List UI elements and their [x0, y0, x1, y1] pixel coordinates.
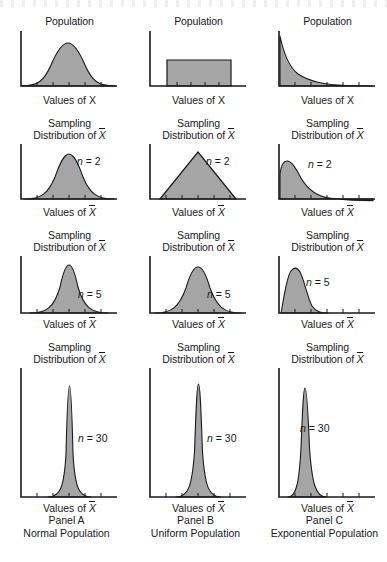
sample-size-label: n = 5 [78, 288, 102, 300]
panel-caption-line2: Uniform Population [133, 527, 258, 540]
chart-title-line2: Distribution of X [276, 242, 379, 254]
x-axis-label-text: Values of [43, 318, 89, 330]
panel-caption-line2: Normal Population [4, 527, 129, 540]
cell-panel-c-population: Population Values of X [258, 14, 387, 118]
x-bar-symbol: X [228, 242, 235, 254]
chart-title-line2: Distribution of X [276, 130, 379, 142]
plot-exponential-population [276, 29, 377, 91]
x-axis-label-text: Values of [301, 206, 347, 218]
sample-size-label: n = 30 [207, 432, 237, 444]
cell-panel-b-n2: Sampling Distribution of X n = 2 [129, 118, 258, 228]
x-axis-label-text: Values of [172, 318, 218, 330]
chart-title-line2: Distribution of X [18, 354, 121, 366]
x-axis-label: Values of X [18, 94, 121, 106]
cell-panel-a-n30: Sampling Distribution of X n = 30 [0, 340, 129, 562]
sample-size-label: n = 5 [306, 276, 330, 288]
chart-title: Population [18, 16, 121, 28]
chart-title-line2: Distribution of X [147, 242, 250, 254]
plot-svg [18, 29, 119, 91]
x-axis-label-text: Values of [172, 206, 218, 218]
x-axis-label-text: Values of [43, 206, 89, 218]
x-axis-label: Values of X [276, 206, 379, 218]
x-bar-symbol: X [357, 242, 364, 254]
sample-size-label: n = 30 [78, 432, 108, 444]
x-bar-symbol: X [99, 242, 106, 254]
chart-title: Sampling Distribution of X [18, 118, 121, 141]
cell-panel-c-n2: Sampling Distribution of X n = 2 [258, 118, 387, 228]
clt-figure: Population Values of X Populat [0, 0, 387, 562]
x-bar-symbol: X [347, 318, 354, 330]
chart-title: Sampling Distribution of X [276, 230, 379, 253]
x-bar-symbol: X [89, 318, 96, 330]
x-axis-label: Values of X [147, 318, 250, 330]
chart-title: Sampling Distribution of X [276, 118, 379, 141]
distribution-curve [280, 36, 373, 86]
cell-panel-b-n5: Sampling Distribution of X n = 5 [129, 228, 258, 340]
plot-uniform-n5 [147, 256, 248, 318]
chart-title: Sampling Distribution of X [276, 342, 379, 365]
x-axis-label-text: Values of [172, 502, 218, 514]
plot-svg [18, 256, 119, 318]
sample-size-label: n = 2 [308, 158, 332, 170]
plot-svg [276, 144, 377, 204]
panel-caption-line1: Panel B [133, 514, 258, 527]
cell-panel-a-population: Population Values of X [0, 14, 129, 118]
panel-caption: Panel B Uniform Population [133, 514, 258, 539]
cell-panel-a-n2: Sampling Distribution of X n = 2 [0, 118, 129, 228]
plot-svg [276, 29, 377, 91]
x-axis-label: Values of X [147, 206, 250, 218]
x-axis-label: Values of X [147, 94, 250, 106]
chart-title: Sampling Distribution of X [147, 118, 250, 141]
cell-panel-b-n30: Sampling Distribution of X n = 30 [129, 340, 258, 562]
cell-panel-a-n5: Sampling Distribution of X n = 5 [0, 228, 129, 340]
plot-uniform-population [147, 29, 248, 91]
chart-title-line2: Distribution of X [276, 354, 379, 366]
distribution-curve [288, 388, 326, 497]
plot-svg [147, 144, 248, 204]
x-axis-label: Values of X [18, 318, 121, 330]
x-axis-label: Values of X [18, 502, 121, 514]
plot-normal-n5 [18, 256, 119, 318]
x-bar-symbol: X [357, 354, 364, 366]
chart-title-line2: Distribution of X [18, 242, 121, 254]
panel-caption-line1: Panel A [4, 514, 129, 527]
x-axis-label: Values of X [18, 206, 121, 218]
top-edge-artifact [0, 0, 387, 7]
x-axis-label-text: Values of [301, 502, 347, 514]
plot-exponential-n2 [276, 144, 377, 204]
panel-caption: Panel A Normal Population [4, 514, 129, 539]
plot-svg [18, 144, 119, 204]
panel-caption-line1: Panel C [262, 514, 387, 527]
x-bar-symbol: X [347, 502, 354, 514]
distribution-curve [21, 43, 115, 86]
plot-uniform-n2 [147, 144, 248, 204]
plot-svg [147, 256, 248, 318]
x-bar-symbol: X [99, 354, 106, 366]
x-axis-label: Values of X [276, 318, 379, 330]
sample-size-label: n = 2 [206, 155, 230, 167]
x-axis-label: Values of X [276, 94, 379, 106]
x-bar-symbol: X [89, 502, 96, 514]
x-bar-symbol: X [89, 206, 96, 218]
sample-size-label: n = 30 [300, 422, 330, 434]
x-bar-symbol: X [347, 206, 354, 218]
sample-size-label: n = 5 [207, 288, 231, 300]
chart-title: Sampling Distribution of X [18, 230, 121, 253]
x-bar-symbol: X [218, 206, 225, 218]
plot-exponential-n30 [276, 368, 377, 502]
chart-title-line2: Distribution of X [147, 354, 250, 366]
cell-panel-b-population: Population Values of X [129, 14, 258, 118]
x-axis-label-text: Values of [301, 318, 347, 330]
x-axis-label: Values of X [276, 502, 379, 514]
panel-caption-line2: Exponential Population [262, 527, 387, 540]
x-bar-symbol: X [218, 318, 225, 330]
chart-title-line2: Distribution of X [147, 130, 250, 142]
distribution-curve [281, 268, 328, 313]
cell-panel-c-n30: Sampling Distribution of X n = 30 [258, 340, 387, 562]
x-bar-symbol: X [218, 502, 225, 514]
plot-svg [276, 368, 377, 502]
panel-caption: Panel C Exponential Population [262, 514, 387, 539]
plot-normal-population [18, 29, 119, 91]
x-bar-symbol: X [357, 130, 364, 142]
cell-panel-c-n5: Sampling Distribution of X n = 5 [258, 228, 387, 340]
